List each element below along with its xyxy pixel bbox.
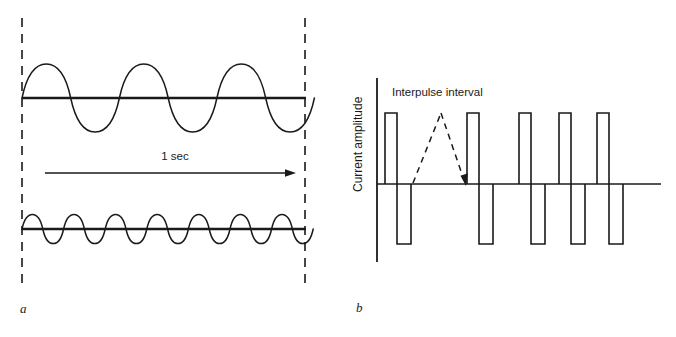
interpulse-interval-rising-dashed-line xyxy=(413,113,441,183)
biphasic-pulse-1 xyxy=(385,113,411,244)
current-amplitude-axis-label: Current amplitude xyxy=(351,96,365,192)
one-second-arrow-head xyxy=(285,169,296,177)
interpulse-interval-indicator xyxy=(413,113,468,186)
interpulse-interval-label: Interpulse interval xyxy=(392,86,483,98)
one-second-arrow xyxy=(45,169,296,177)
biphasic-pulse-4 xyxy=(559,113,585,244)
biphasic-pulse-5 xyxy=(597,113,623,244)
interpulse-interval-falling-dashed-line xyxy=(441,113,464,180)
biphasic-pulse-3 xyxy=(519,113,545,244)
figure-canvas: 1 sec Current amplitude xyxy=(0,0,676,337)
pulse-train xyxy=(385,113,623,244)
one-second-label: 1 sec xyxy=(161,150,189,162)
panel-a-label: a xyxy=(20,301,27,317)
panel-b-label: b xyxy=(356,300,363,316)
figure-container: 1 sec Current amplitude xyxy=(0,0,676,337)
panel-b-group: Current amplitude Interpulse interval xyxy=(351,78,661,262)
panel-a-group: 1 sec xyxy=(22,18,314,288)
biphasic-pulse-2 xyxy=(467,113,493,244)
